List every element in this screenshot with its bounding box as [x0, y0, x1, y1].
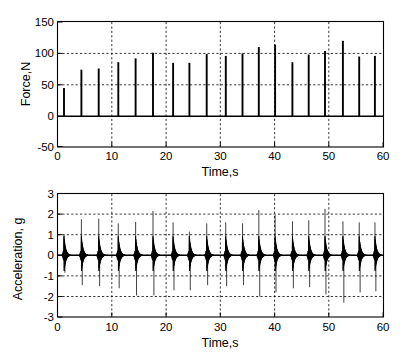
force-xtick-label: 60	[377, 150, 390, 162]
accel-ytick-label: 2	[48, 208, 54, 220]
force-xtick-label: 30	[214, 150, 227, 162]
force-x-axis-label: Time,s	[201, 165, 238, 179]
acceleration-y-axis-label-text: Acceleration, g	[11, 218, 25, 301]
force-y-axis-label: Force,N	[19, 62, 33, 106]
accel-ytick-label: 3	[48, 188, 54, 200]
force-ytick-label: 0	[48, 110, 54, 122]
accel-ytick-label: -1	[44, 270, 54, 282]
force-ytick-label: 50	[41, 79, 54, 91]
acceleration-y-tick-labels: 3 2 1 0 -1 -2 -3	[44, 188, 54, 324]
acceleration-x-axis-label: Time,s	[201, 336, 238, 350]
force-xtick-label: 50	[322, 150, 335, 162]
accel-xtick-label: 50	[322, 321, 335, 333]
accel-ytick-label: -2	[44, 291, 54, 303]
force-ytick-label: -50	[37, 141, 54, 153]
force-x-tick-labels: 0 10 20 30 40 50 60	[54, 150, 389, 162]
accel-xtick-label: 30	[214, 321, 227, 333]
force-ytick-label: 150	[35, 16, 54, 28]
accel-ytick-label: 1	[48, 229, 54, 241]
accel-xtick-label: 20	[160, 321, 173, 333]
acceleration-x-tick-labels: 0 10 20 30 40 50 60	[54, 321, 389, 333]
accel-ytick-label: 0	[48, 249, 54, 261]
accel-ytick-label: -3	[44, 311, 54, 323]
force-y-tick-labels: 150 100 50 0 -50	[35, 16, 54, 153]
accel-xtick-label: 40	[268, 321, 281, 333]
force-xtick-label: 40	[268, 150, 281, 162]
accel-xtick-label: 0	[54, 321, 60, 333]
figure-container: Force,N	[0, 0, 408, 362]
force-time-plot: Force,N	[0, 0, 408, 181]
force-xtick-label: 10	[105, 150, 118, 162]
accel-xtick-label: 10	[105, 321, 118, 333]
acceleration-time-plot: Acceleration, g	[0, 181, 408, 362]
force-ytick-label: 100	[35, 47, 54, 59]
acceleration-y-axis-label: Acceleration, g	[11, 218, 25, 301]
accel-xtick-label: 60	[377, 321, 390, 333]
force-xtick-label: 20	[160, 150, 173, 162]
force-y-axis-label-text: Force,N	[19, 62, 33, 106]
force-plot-svg: Force,N	[0, 0, 408, 181]
acceleration-plot-svg: Acceleration, g	[0, 181, 408, 362]
force-xtick-label: 0	[54, 150, 60, 162]
